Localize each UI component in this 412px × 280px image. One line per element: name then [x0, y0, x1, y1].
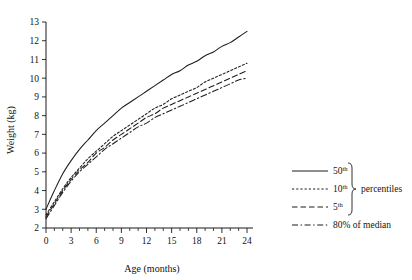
legend-group-label: percentiles	[361, 184, 402, 194]
legend-item: 50th	[292, 165, 348, 176]
x-tick-label: 3	[69, 236, 74, 246]
y-tick-label: 7	[34, 130, 39, 140]
y-tick-label: 13	[30, 17, 40, 27]
y-tick-label: 8	[34, 111, 39, 121]
x-tick-label: 0	[44, 236, 49, 246]
legend-label: 80% of median	[333, 220, 391, 230]
legend-label: 50th	[333, 165, 348, 176]
y-tick-label: 4	[34, 186, 39, 196]
curve-80-of-median	[46, 78, 247, 218]
legend-label: 10th	[333, 183, 348, 194]
chart-canvas: 2345678910111213 03691215182124 Age (mon…	[0, 0, 412, 280]
legend-label-superscript: th	[343, 165, 349, 172]
legend-label-superscript: th	[343, 183, 349, 190]
y-axis-group: 2345678910111213	[30, 17, 47, 233]
curve-10th	[46, 63, 247, 215]
y-axis-ticks	[42, 22, 46, 228]
y-tick-label: 2	[34, 223, 39, 233]
curve-50th	[46, 31, 247, 209]
x-tick-label: 21	[217, 236, 227, 246]
chart-legend: 50th10th5th80% of medianpercentiles	[292, 163, 402, 230]
y-tick-label: 5	[34, 167, 39, 177]
legend-item: 10th	[292, 183, 348, 194]
legend-group-brace	[348, 163, 356, 215]
curve-5th	[46, 71, 247, 217]
x-tick-label: 6	[94, 236, 99, 246]
x-axis-tick-labels: 03691215182124	[44, 236, 252, 246]
x-axis-ticks	[46, 228, 247, 233]
x-tick-label: 24	[242, 236, 252, 246]
x-tick-label: 15	[167, 236, 177, 246]
legend-label-superscript: th	[338, 201, 344, 208]
x-tick-label: 18	[192, 236, 202, 246]
y-axis-tick-labels: 2345678910111213	[30, 17, 40, 233]
legend-item: 80% of median	[292, 220, 391, 230]
y-tick-label: 10	[30, 74, 40, 84]
y-tick-label: 9	[34, 92, 39, 102]
x-axis-title: Age (months)	[124, 263, 179, 275]
y-tick-label: 11	[30, 55, 39, 65]
x-axis-group: 03691215182124	[44, 228, 253, 246]
y-tick-label: 12	[30, 36, 40, 46]
data-curves	[46, 31, 247, 218]
legend-label: 5th	[333, 201, 344, 212]
y-axis-title: Weight (kg)	[5, 106, 17, 154]
x-tick-label: 9	[119, 236, 124, 246]
legend-item: 5th	[292, 201, 344, 212]
x-tick-label: 12	[142, 236, 152, 246]
y-tick-label: 3	[34, 205, 39, 215]
y-tick-label: 6	[34, 148, 39, 158]
growth-chart-figure: 2345678910111213 03691215182124 Age (mon…	[0, 0, 412, 280]
